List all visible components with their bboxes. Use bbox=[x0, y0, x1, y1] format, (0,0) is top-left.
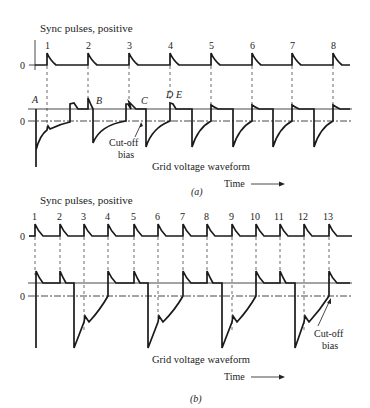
pulse-number: 3 bbox=[81, 211, 86, 222]
panel-b-projection-lines bbox=[35, 237, 329, 330]
label-point-c: C bbox=[141, 95, 148, 106]
panel-a-pulse-numbers: 1 2 3 4 5 6 7 8 bbox=[45, 40, 336, 51]
panel-b-cutoff-label: Cut-off bbox=[314, 328, 344, 339]
pulse-number: 8 bbox=[204, 211, 209, 222]
arrowhead-icon bbox=[140, 122, 144, 128]
pulse-number: 5 bbox=[131, 211, 136, 222]
pulse-number: 8 bbox=[331, 40, 336, 51]
pulse-number: 10 bbox=[250, 211, 260, 222]
panel-a-caption: (a) bbox=[191, 186, 203, 198]
pulse-number: 7 bbox=[290, 40, 295, 51]
pulse-number: 2 bbox=[57, 211, 62, 222]
panel-a-cutoff-label-2: bias bbox=[118, 149, 134, 160]
panel-b-time-label: Time bbox=[224, 371, 245, 382]
panel-b-pulse-numbers: 1 2 3 4 5 6 7 8 9 10 11 12 13 bbox=[32, 211, 333, 222]
pulse-number: 6 bbox=[250, 40, 255, 51]
panel-b-sync-title: Sync pulses, positive bbox=[40, 194, 133, 206]
panel-a-grid-zero: 0 bbox=[20, 116, 25, 127]
panel-a-cutoff-label: Cut-off bbox=[109, 137, 139, 148]
pulse-number: 1 bbox=[32, 211, 37, 222]
pulse-number: 6 bbox=[155, 211, 160, 222]
panel-a: Sync pulses, positive 0 1 2 3 4 5 6 7 8 bbox=[20, 22, 352, 198]
arrow-right-icon bbox=[279, 375, 285, 380]
label-point-b: B bbox=[96, 95, 102, 106]
pulse-number: 3 bbox=[127, 40, 132, 51]
pulse-number: 12 bbox=[298, 211, 308, 222]
panel-b-sync-zero: 0 bbox=[20, 231, 25, 242]
pulse-number: 5 bbox=[209, 40, 214, 51]
panel-a-sync-zero: 0 bbox=[20, 60, 25, 71]
pulse-number: 4 bbox=[105, 211, 110, 222]
panel-a-time-label: Time bbox=[224, 178, 245, 189]
panel-a-projection-lines bbox=[47, 66, 333, 130]
panel-a-sync-pulse-train bbox=[35, 53, 350, 65]
panel-b: Sync pulses, positive 0 1 2 3 4 5 6 7 8 … bbox=[20, 194, 352, 405]
arrow-right-icon bbox=[279, 182, 285, 187]
pulse-number: 9 bbox=[229, 211, 234, 222]
pulse-number: 13 bbox=[323, 211, 333, 222]
sync-diagram: Sync pulses, positive 0 1 2 3 4 5 6 7 8 bbox=[0, 0, 370, 408]
panel-a-sync-title: Sync pulses, positive bbox=[40, 22, 133, 34]
panel-b-waveform-title: Grid voltage waveform bbox=[152, 354, 250, 365]
pulse-number: 4 bbox=[168, 40, 173, 51]
panel-b-sync-pulse-train bbox=[29, 224, 352, 236]
pulse-number: 11 bbox=[274, 211, 284, 222]
panel-b-grid-zero: 0 bbox=[20, 291, 25, 302]
pulse-number: 7 bbox=[180, 211, 185, 222]
label-point-d: D bbox=[165, 89, 174, 100]
panel-b-caption: (b) bbox=[190, 393, 202, 405]
panel-a-waveform-title: Grid voltage waveform bbox=[152, 161, 250, 172]
pulse-number: 1 bbox=[45, 40, 50, 51]
pulse-number: 2 bbox=[86, 40, 91, 51]
label-point-a: A bbox=[31, 94, 39, 105]
label-point-e: E bbox=[175, 89, 182, 100]
panel-a-grid-waveform bbox=[36, 98, 350, 167]
panel-b-cutoff-label-2: bias bbox=[322, 340, 338, 351]
